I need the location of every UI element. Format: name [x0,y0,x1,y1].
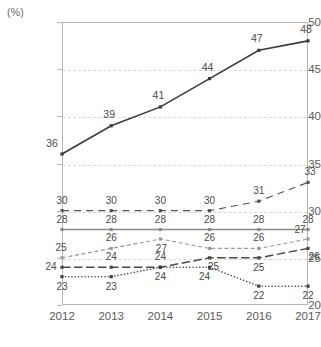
data-label-series-a-2015: 44 [202,61,214,72]
data-label-series-d-2016: 26 [253,233,264,243]
data-point-series-e-2012 [60,266,63,269]
data-label-series-d-2013: 26 [106,233,117,243]
data-point-series-b-2014 [159,209,162,212]
data-point-series-c-2016 [257,228,260,231]
x-tick-label-2014: 2014 [148,310,174,322]
data-label-series-a-2012: 36 [46,138,58,149]
data-point-series-d-2017 [306,237,309,240]
y-axis-unit-label: (%) [7,6,24,18]
data-label-series-b-2017: 33 [304,167,315,177]
data-point-series-d-2014 [159,237,162,240]
data-label-series-b-2013: 30 [106,196,117,206]
data-point-series-f-2014 [159,266,162,269]
y-tick-mark-35 [57,164,62,165]
data-label-series-c-2013: 28 [106,215,117,225]
data-point-series-f-2017 [306,285,309,288]
data-label-series-e-2016: 25 [253,263,264,273]
data-point-series-c-2015 [208,228,211,231]
data-point-series-a-2016 [257,49,260,52]
y-tick-label-45: 45 [265,63,321,75]
data-point-series-f-2016 [257,285,260,288]
data-label-series-b-2012: 30 [56,196,67,206]
data-label-series-a-2017: 48 [300,24,312,35]
data-point-series-b-2013 [110,209,113,212]
y-tick-mark-30 [57,211,62,212]
data-label-series-b-2015: 30 [204,196,215,206]
data-point-series-b-2016 [257,200,260,203]
x-tick-label-2015: 2015 [197,310,223,322]
data-point-series-d-2015 [208,247,211,250]
data-label-series-a-2014: 41 [153,90,165,101]
x-tick-label-2013: 2013 [98,310,124,322]
data-label-series-c-2016: 28 [253,215,264,225]
data-point-series-b-2017 [306,181,309,184]
data-label-series-f-2015: 24 [199,272,210,282]
data-label-series-b-2016: 31 [253,186,264,196]
data-point-series-c-2014 [159,228,162,231]
data-point-series-f-2012 [60,275,63,278]
data-point-series-c-2017 [306,228,309,231]
y-tick-label-50: 50 [265,16,321,28]
data-point-series-a-2014 [159,105,162,108]
data-label-series-e-2017: 26 [308,252,319,262]
data-point-series-d-2016 [257,247,260,250]
y-tick-mark-50 [57,22,62,23]
data-label-series-a-2013: 39 [103,109,115,120]
y-tick-mark-45 [57,69,62,70]
data-point-series-c-2013 [110,228,113,231]
data-label-series-c-2012: 28 [56,215,67,225]
data-point-series-e-2016 [257,256,260,259]
data-point-series-a-2013 [110,124,113,127]
line-chart: (%) 20253035404550 201220132014201520162… [0,0,321,347]
data-point-series-a-2012 [60,152,63,155]
data-point-series-c-2012 [60,228,63,231]
data-label-series-d-2015: 26 [204,233,215,243]
data-label-series-b-2014: 30 [155,196,166,206]
data-point-series-e-2013 [110,266,113,269]
x-tick-label-2017: 2017 [295,310,321,322]
data-point-series-f-2013 [110,275,113,278]
y-tick-mark-20 [57,305,62,306]
x-tick-label-2016: 2016 [246,310,272,322]
y-tick-mark-25 [57,258,62,259]
data-label-series-e-2012: 24 [45,262,56,272]
data-label-series-a-2016: 47 [251,33,263,44]
data-label-series-c-2014: 28 [155,215,166,225]
y-tick-mark-40 [57,116,62,117]
data-label-series-d-2012: 25 [55,243,66,253]
data-point-series-a-2015 [208,77,211,80]
data-label-series-d-2017: 27 [294,225,305,235]
data-label-series-f-2012: 23 [56,282,67,292]
data-point-series-b-2015 [208,209,211,212]
series-line-series-f [62,267,308,286]
x-tick-label-2012: 2012 [49,310,75,322]
data-label-series-f-2014: 24 [155,272,166,282]
y-tick-label-40: 40 [265,110,321,122]
data-label-series-f-2013: 23 [106,282,117,292]
data-label-series-c-2015: 28 [204,215,215,225]
data-point-series-a-2017 [306,39,309,42]
data-point-series-d-2013 [110,247,113,250]
data-point-series-e-2015 [208,256,211,259]
data-point-series-e-2017 [306,247,309,250]
data-label-series-f-2016: 22 [253,291,264,301]
series-line-series-a [62,41,308,154]
data-label-series-f-2017: 22 [302,291,313,301]
data-label-series-e-2013: 24 [106,252,117,262]
data-label-series-e-2014: 24 [155,252,166,262]
